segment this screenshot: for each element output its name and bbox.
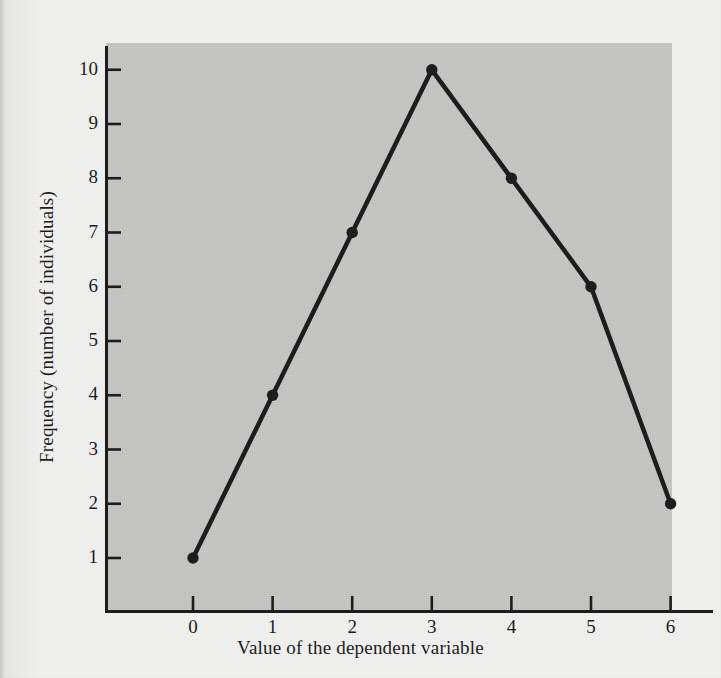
- y-axis-ticks: [107, 70, 121, 558]
- x-axis-tick-label: 0: [173, 616, 213, 638]
- x-axis-ticks: [193, 596, 671, 610]
- data-point-marker: [187, 552, 198, 563]
- y-axis-tick-label: 3: [58, 438, 98, 460]
- y-axis-tick-label: 1: [58, 546, 98, 568]
- data-point-marker: [506, 173, 517, 184]
- x-axis-tick-label: 4: [491, 616, 531, 638]
- y-axis-tick-label: 6: [58, 275, 98, 297]
- data-series-line: [193, 70, 671, 558]
- y-axis-tick-label: 4: [58, 383, 98, 405]
- x-axis-title: Value of the dependent variable: [0, 637, 721, 659]
- x-axis-tick-label: 6: [651, 616, 691, 638]
- data-point-marker: [665, 498, 676, 509]
- y-axis-tick-label: 10: [58, 58, 98, 80]
- x-axis-tick-label: 1: [253, 616, 293, 638]
- y-axis-title: Frequency (number of individuals): [36, 43, 62, 611]
- x-axis-tick-label: 2: [332, 616, 372, 638]
- data-point-marker: [347, 227, 358, 238]
- figure-page: 123456789100123456 Value of the dependen…: [0, 0, 721, 678]
- line-chart: [0, 0, 721, 678]
- y-axis-tick-label: 2: [58, 492, 98, 514]
- y-axis-tick-label: 8: [58, 166, 98, 188]
- data-point-marker: [426, 64, 437, 75]
- y-axis-tick-label: 5: [58, 329, 98, 351]
- y-axis-tick-label: 7: [58, 221, 98, 243]
- x-axis-tick-label: 5: [571, 616, 611, 638]
- data-point-marker: [585, 281, 596, 292]
- x-axis-tick-label: 3: [412, 616, 452, 638]
- y-axis-tick-label: 9: [58, 112, 98, 134]
- data-point-marker: [267, 390, 278, 401]
